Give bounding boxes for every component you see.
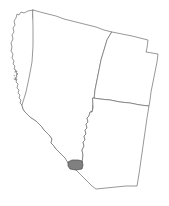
highlighted-county[interactable] — [68, 160, 83, 170]
locator-map: Southwest United States locator map — [0, 0, 169, 206]
map-svg — [0, 0, 169, 206]
